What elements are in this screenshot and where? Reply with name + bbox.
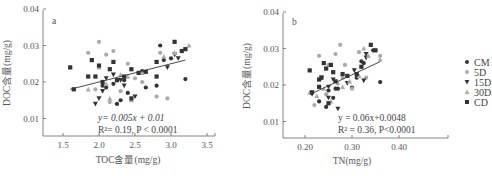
cd-marker	[97, 63, 101, 67]
30d-marker	[314, 93, 319, 98]
legend-15d-marker	[465, 80, 470, 84]
cd-marker	[183, 47, 187, 51]
y-axis-label-b: DOC含量(mg/g)	[241, 43, 253, 109]
cd-marker	[317, 85, 321, 89]
x-tick-label: 2.0	[93, 140, 105, 150]
chart-panel-a: 0.010.020.030.041.52.02.53.03.5 a y= 0.0…	[1, 4, 215, 166]
5d-marker	[350, 87, 354, 91]
x-tick-label: 0.20	[297, 142, 313, 152]
legend-5d-marker	[465, 70, 469, 74]
5d-marker	[108, 100, 112, 104]
y-tick-label: 0.03	[23, 41, 39, 51]
15d-marker	[96, 96, 101, 101]
cm-marker	[144, 85, 148, 89]
y-tick-label: 0.04	[23, 4, 39, 14]
cm-marker	[362, 61, 366, 65]
30d-marker	[361, 46, 366, 51]
legend-cm-marker	[465, 60, 469, 64]
5d-marker	[324, 92, 328, 96]
cm-marker	[119, 98, 123, 102]
panel-label-a: a	[52, 16, 57, 26]
30d-marker	[340, 84, 345, 89]
cm-marker	[169, 56, 173, 60]
cd-marker	[93, 74, 97, 78]
5d-marker	[126, 62, 130, 66]
cm-marker	[158, 43, 162, 47]
5d-marker	[343, 63, 347, 67]
cm-marker	[111, 82, 115, 86]
5d-marker	[165, 96, 169, 100]
cd-marker	[326, 101, 330, 105]
legend: CM5D15D30DCD	[465, 57, 492, 108]
regression-equation-a: y= 0.005x + 0.01	[97, 113, 164, 123]
figure-canvas: 0.010.020.030.041.52.02.53.03.5 a y= 0.0…	[0, 0, 492, 176]
cd-marker	[68, 65, 72, 69]
5d-marker	[338, 43, 342, 47]
x-tick-label: 0.30	[344, 142, 360, 152]
cm-marker	[378, 80, 382, 84]
x-axis-label-b: TN(mg/g)	[333, 156, 372, 167]
30d-marker	[107, 96, 112, 101]
panel-label-b: b	[292, 17, 297, 27]
cd-marker	[359, 65, 363, 69]
y-tick-label: 0.02	[263, 80, 279, 90]
15d-marker	[122, 84, 127, 89]
cd-marker	[373, 48, 377, 52]
x-tick-label: 2.5	[129, 140, 141, 150]
plot-area-b	[307, 43, 383, 111]
5d-marker	[86, 51, 90, 55]
cm-marker	[155, 84, 159, 88]
5d-marker	[119, 89, 123, 93]
plot-area-a	[68, 40, 191, 107]
cm-marker	[331, 96, 335, 100]
regression-equation-b: y = 0.06x+0.0048	[338, 113, 406, 123]
y-tick-label: 0.02	[23, 77, 39, 87]
cm-marker	[162, 58, 166, 62]
cd-marker	[129, 67, 133, 71]
cd-marker	[324, 66, 328, 70]
chart-panel-b: 0.010.020.030.040.200.300.40 b y = 0.06x…	[241, 7, 448, 167]
cm-marker	[183, 77, 187, 81]
30d-marker	[186, 43, 191, 48]
regression-stats-b: R² = 0.36, P<0.0001	[338, 125, 416, 135]
5d-marker	[357, 50, 361, 54]
cd-marker	[115, 78, 119, 82]
5d-marker	[155, 95, 159, 99]
cm-marker	[126, 91, 130, 95]
cd-marker	[111, 60, 115, 64]
5d-marker	[104, 53, 108, 57]
30d-marker	[161, 54, 166, 59]
30d-marker	[86, 87, 91, 92]
y-tick-label: 0.04	[263, 7, 279, 17]
15d-marker	[361, 79, 366, 84]
15d-marker	[111, 73, 116, 78]
15d-marker	[165, 65, 170, 70]
legend-cd-marker	[465, 100, 469, 104]
x-tick-label: 3.5	[201, 140, 213, 150]
cd-marker	[331, 70, 335, 74]
cm-marker	[104, 85, 108, 89]
regression-stats-a: R²= 0.19, P < 0.0001	[98, 125, 178, 135]
5d-marker	[140, 80, 144, 84]
x-tick-label: 3.0	[165, 140, 177, 150]
legend-30d-marker	[465, 90, 470, 94]
15d-marker	[100, 89, 105, 94]
x-tick-label: 0.40	[391, 142, 407, 152]
15d-marker	[326, 96, 331, 101]
cm-marker	[336, 87, 340, 91]
cm-marker	[317, 99, 321, 103]
cd-marker	[155, 60, 159, 64]
cd-marker	[308, 68, 312, 72]
5d-marker	[93, 87, 97, 91]
cd-marker	[86, 74, 90, 78]
cm-marker	[115, 102, 119, 106]
cd-marker	[341, 72, 345, 76]
cd-marker	[155, 74, 159, 78]
cd-marker	[90, 58, 94, 62]
cd-marker	[108, 67, 112, 71]
15d-marker	[176, 56, 181, 61]
5d-marker	[317, 54, 321, 58]
y-axis-label-a: DOC含量(mg/g)	[1, 40, 13, 106]
legend-label: CD	[474, 97, 488, 108]
5d-marker	[158, 51, 162, 55]
